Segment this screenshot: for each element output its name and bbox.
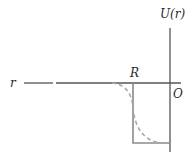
r-axis-label: r (10, 76, 17, 90)
smooth-potential-curve (112, 83, 162, 143)
radius-label: R (129, 66, 139, 80)
potential-well-diagram: U(r) r R O (0, 0, 195, 159)
square-well-line (133, 83, 170, 143)
u-axis-label: U(r) (160, 7, 186, 21)
origin-label: O (173, 87, 183, 101)
